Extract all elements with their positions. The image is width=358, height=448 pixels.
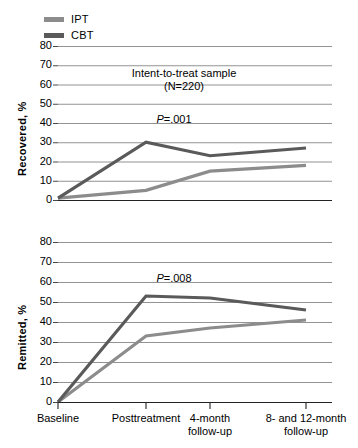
p-number: =.001 [164, 113, 192, 125]
legend-label-cbt: CBT [71, 30, 94, 41]
y-tick-label-top: 40 [26, 117, 52, 128]
y-tick-label-top: 50 [26, 98, 52, 109]
series-line-cbt [58, 296, 306, 402]
p-value-top: P=.001 [114, 113, 234, 126]
p-symbol: P [156, 272, 163, 284]
series-line-cbt [58, 142, 306, 198]
y-tick-label-top: 80 [26, 40, 52, 51]
y-tick-label-bottom: 40 [26, 316, 52, 327]
y-tick-label-bottom: 30 [26, 336, 52, 347]
x-tick-label-line1: Baseline [13, 412, 103, 425]
plot-area-bottom [0, 236, 358, 411]
legend-label-ipt: IPT [71, 14, 89, 25]
p-number: =.008 [164, 272, 192, 284]
y-tick-label-bottom: 20 [26, 356, 52, 367]
line-swatch-icon [44, 33, 64, 38]
line-swatch-icon [44, 17, 64, 22]
y-tick-label-top: 30 [26, 136, 52, 147]
legend-item-ipt: IPT [44, 12, 94, 26]
p-value-bottom: P=.008 [114, 272, 234, 285]
y-tick-label-top: 60 [26, 79, 52, 90]
x-tick-label-2: 4-monthfollow-up [168, 412, 252, 438]
y-tick-label-bottom: 60 [26, 276, 52, 287]
x-axis: BaselinePosttreatment4-monthfollow-up8- … [0, 398, 358, 448]
y-tick-label-top: 0 [26, 194, 52, 205]
y-tick-label-top: 20 [26, 156, 52, 167]
y-tick-label-bottom: 50 [26, 296, 52, 307]
panel-title-line1: Intent-to-treat sample [104, 67, 264, 80]
series-line-ipt [58, 165, 306, 198]
x-tick-label-line2: follow-up [246, 425, 358, 438]
series-line-ipt [58, 320, 306, 402]
x-tick-label-line1: 4-month [168, 412, 252, 425]
x-tick-label-line2: follow-up [168, 425, 252, 438]
x-tick-label-3: 8- and 12-monthfollow-up [246, 412, 358, 438]
y-tick-label-top: 10 [26, 175, 52, 186]
y-tick-label-bottom: 70 [26, 256, 52, 267]
x-tick-label-0: Baseline [13, 412, 103, 425]
x-tick-label-line1: 8- and 12-month [246, 412, 358, 425]
figure-container: IPT CBT Recovered, % Intent-to-treat sam… [0, 0, 358, 448]
p-symbol: P [156, 113, 163, 125]
y-tick-label-top: 70 [26, 59, 52, 70]
chart-panel-bottom [0, 236, 358, 411]
y-tick-label-bottom: 10 [26, 376, 52, 387]
y-tick-label-bottom: 80 [26, 236, 52, 247]
panel-title-line2: (N=220) [104, 80, 264, 93]
y-tick-label-bottom: 0 [26, 396, 52, 407]
